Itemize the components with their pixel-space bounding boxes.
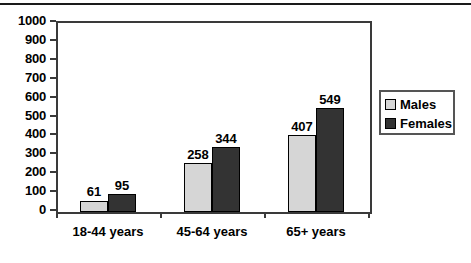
x-tick-mark-1	[160, 212, 162, 218]
grouped-bar-chart: 1000 900 800 700 600 500 400 300 200 100…	[0, 0, 471, 263]
legend-label-females: Females	[400, 117, 452, 130]
plot-area: 61 95 258 344 407 549	[56, 21, 372, 214]
bar-label-females-18-44-years: 95	[94, 179, 150, 192]
legend: Males Females	[379, 90, 455, 135]
bar-males-65-plus-years[interactable]	[288, 135, 316, 212]
y-tick-label-600: 600	[0, 92, 46, 102]
legend-label-males: Males	[400, 98, 436, 111]
y-tick-label-400: 400	[0, 129, 46, 139]
y-tick-label-100: 100	[0, 186, 46, 196]
bar-females-18-44-years[interactable]	[108, 194, 136, 212]
legend-swatch-females-icon	[385, 118, 396, 129]
bar-females-45-64-years[interactable]	[212, 147, 240, 212]
x-tick-mark-start	[56, 212, 58, 218]
x-category-label-45-64-years: 45-64 years	[160, 224, 264, 239]
y-tick-label-0: 0	[0, 205, 46, 215]
plot-inner: 61 95 258 344 407 549	[58, 23, 370, 212]
bar-group-18-44-years: 61 95	[58, 23, 162, 212]
x-tick-mark-end	[368, 212, 370, 218]
x-category-label-18-44-years: 18-44 years	[56, 224, 160, 239]
bar-label-females-45-64-years: 344	[196, 132, 256, 145]
bar-males-45-64-years[interactable]	[184, 163, 212, 212]
y-tick-label-800: 800	[0, 54, 46, 64]
x-category-label-65-plus-years: 65+ years	[264, 224, 368, 239]
legend-swatch-males-icon	[385, 99, 396, 110]
y-tick-label-700: 700	[0, 73, 46, 83]
y-tick-label-300: 300	[0, 148, 46, 158]
y-axis: 1000 900 800 700 600 500 400 300 200 100…	[0, 21, 46, 210]
bar-females-65-plus-years[interactable]	[316, 108, 344, 212]
y-tick-label-1000: 1000	[0, 16, 46, 26]
y-tick-label-900: 900	[0, 35, 46, 45]
bar-group-65-plus-years: 407 549	[266, 23, 370, 212]
legend-item-males[interactable]: Males	[385, 95, 450, 114]
bar-males-18-44-years[interactable]	[80, 201, 108, 213]
x-tick-mark-2	[264, 212, 266, 218]
bar-label-females-65-plus-years: 549	[300, 93, 360, 106]
bar-group-45-64-years: 258 344	[162, 23, 266, 212]
y-tick-label-200: 200	[0, 167, 46, 177]
y-tick-label-500: 500	[0, 111, 46, 121]
legend-item-females[interactable]: Females	[385, 114, 450, 133]
